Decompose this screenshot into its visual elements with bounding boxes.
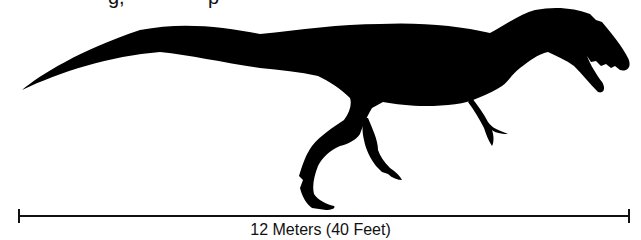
dinosaur-silhouette [22, 8, 630, 210]
dinosaur-front-leg [363, 118, 403, 180]
dinosaur-size-diagram [0, 0, 641, 240]
scale-bar-label: 12 Meters (40 Feet) [0, 220, 641, 240]
dinosaur-arm [468, 98, 508, 146]
